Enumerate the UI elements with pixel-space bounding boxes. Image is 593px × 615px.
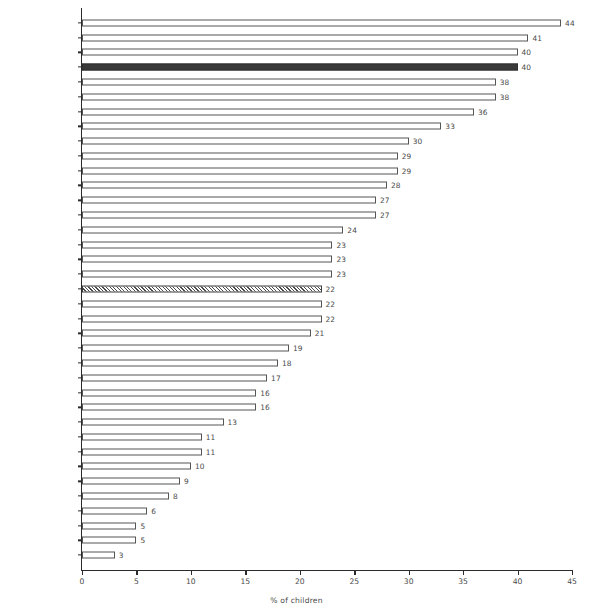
- bar-value-label: 27: [380, 211, 390, 220]
- bar: [82, 271, 332, 278]
- bar-value-label: 22: [326, 314, 336, 323]
- chart-row: Bulgaria22: [82, 312, 572, 326]
- chart-row: Faroe Islands10: [82, 460, 572, 474]
- chart-row: Portugal18: [82, 356, 572, 370]
- x-axis-tick-label: 40: [513, 577, 523, 586]
- x-axis-tick-label: 30: [404, 577, 414, 586]
- chart-row: Ukraine21: [82, 327, 572, 341]
- bar: [82, 34, 528, 41]
- bar: [82, 389, 256, 396]
- x-axis-tick-label: 25: [349, 577, 359, 586]
- bar: [82, 167, 398, 174]
- bar: [82, 197, 376, 204]
- bar: [82, 108, 474, 115]
- bar-value-label: 3: [119, 551, 124, 560]
- x-axis-tick: [136, 570, 137, 575]
- chart-row: Netherlands29: [82, 164, 572, 178]
- bar: [82, 507, 147, 514]
- bar-value-label: 8: [173, 492, 178, 501]
- chart-row: Denmark23: [82, 238, 572, 252]
- bar: [82, 241, 332, 248]
- bar-value-label: 44: [565, 18, 575, 27]
- bar: [82, 522, 136, 529]
- bar: [82, 433, 202, 440]
- bar: [82, 182, 387, 189]
- bar: [82, 552, 115, 559]
- x-axis-tick: [409, 570, 410, 575]
- bar: [82, 478, 180, 485]
- bar-value-label: 38: [500, 77, 510, 86]
- bar: [82, 285, 322, 292]
- bar: [82, 226, 343, 233]
- bar-value-label: 40: [522, 63, 532, 72]
- chart-row: Italy28: [82, 179, 572, 193]
- bar-value-label: 24: [347, 225, 357, 234]
- bar-value-label: 22: [326, 284, 336, 293]
- bar: [82, 359, 278, 366]
- x-axis-spine: [81, 570, 572, 571]
- bar: [82, 78, 496, 85]
- x-axis-tick-label: 10: [186, 577, 196, 586]
- plot-area: Czech Republic44Switzerland41Isle of Man…: [82, 8, 572, 570]
- bar: [82, 374, 267, 381]
- bar: [82, 64, 518, 71]
- bar-value-label: 13: [228, 418, 238, 427]
- bar: [82, 256, 332, 263]
- bar-value-label: 29: [402, 151, 412, 160]
- bar-value-label: 17: [271, 373, 281, 382]
- chart-row: Ireland40: [82, 60, 572, 74]
- chart-row: Russia22: [82, 297, 572, 311]
- bar: [82, 330, 311, 337]
- x-axis-tick: [191, 570, 192, 575]
- bar-value-label: 21: [315, 329, 325, 338]
- chart-row: Norway9: [82, 474, 572, 488]
- x-axis-tick-label: 20: [295, 577, 305, 586]
- bar-value-label: 5: [140, 536, 145, 545]
- chart-row: Lithuania16: [82, 386, 572, 400]
- bar-value-label: 29: [402, 166, 412, 175]
- bar-value-label: 10: [195, 462, 205, 471]
- bar: [82, 493, 169, 500]
- chart-row: Belgium33: [82, 120, 572, 134]
- chart-row: France38: [82, 90, 572, 104]
- bar-value-label: 30: [413, 137, 423, 146]
- x-axis-tick: [354, 570, 355, 575]
- bar-value-label: 18: [282, 358, 292, 367]
- chart-row: United Kingdom38: [82, 75, 572, 89]
- chart-row: Sweden8: [82, 489, 572, 503]
- bar: [82, 537, 136, 544]
- bar: [82, 93, 496, 100]
- bar-value-label: 41: [532, 33, 542, 42]
- bar: [82, 212, 376, 219]
- bar-value-label: 40: [522, 48, 532, 57]
- chart-row: Turkey5: [82, 519, 572, 533]
- bar-value-label: 19: [293, 344, 303, 353]
- bar-value-label: 36: [478, 107, 488, 116]
- bar-value-label: 11: [206, 447, 216, 456]
- chart-row: Greece6: [82, 504, 572, 518]
- x-axis-tick: [463, 570, 464, 575]
- x-axis-tick: [518, 570, 519, 575]
- chart-row: ESPAD average22: [82, 282, 572, 296]
- bar: [82, 448, 202, 455]
- bar-value-label: 6: [151, 506, 156, 515]
- chart-row: Spain36: [82, 105, 572, 119]
- x-axis-tick-label: 5: [134, 577, 139, 586]
- bar: [82, 19, 561, 26]
- x-axis-tick: [82, 570, 83, 575]
- chart-row: Greenland27: [82, 208, 572, 222]
- bar-value-label: 33: [445, 122, 455, 131]
- bar-value-label: 27: [380, 196, 390, 205]
- chart-row: Cyprus5: [82, 534, 572, 548]
- chart-row: Czech Republic44: [82, 16, 572, 30]
- bar-value-label: 9: [184, 477, 189, 486]
- chart-row: Slovak Rep.27: [82, 193, 572, 207]
- x-axis-tick-label: 45: [567, 577, 577, 586]
- chart-row: Hungary16: [82, 401, 572, 415]
- x-axis-tick-label: 35: [458, 577, 468, 586]
- bar: [82, 152, 398, 159]
- chart-row: Switzerland41: [82, 31, 572, 45]
- bar-value-label: 22: [326, 299, 336, 308]
- bar: [82, 345, 289, 352]
- chart-row: Austria23: [82, 267, 572, 281]
